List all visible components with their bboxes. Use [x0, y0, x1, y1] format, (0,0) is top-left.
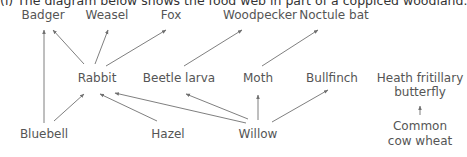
node-willow: Willow	[239, 127, 278, 141]
node-bluebell: Bluebell	[20, 127, 68, 141]
arrow-bluebell-rabbit	[54, 94, 84, 121]
arrow-rabbit-badger	[53, 30, 84, 64]
node-bullfinch: Bullfinch	[306, 71, 358, 85]
arrow-beetle-larva-woodpecker	[184, 30, 242, 66]
node-noctule-bat: Noctule bat	[299, 8, 368, 22]
node-badger: Badger	[21, 8, 64, 22]
node-rabbit: Rabbit	[78, 71, 117, 85]
node-cow-wheat-line1: Common	[393, 119, 447, 133]
arrow-willow-bullfinch	[272, 90, 328, 122]
node-heath-fritillary-line1: Heath fritillary	[377, 71, 463, 85]
node-heath-fritillary-line2: butterfly	[394, 85, 446, 99]
arrow-moth-noctule-bat	[262, 30, 318, 66]
node-weasel: Weasel	[86, 8, 129, 22]
arrow-rabbit-fox	[106, 30, 166, 66]
arrow-rabbit-weasel	[95, 30, 108, 64]
arrow-willow-rabbit	[115, 93, 246, 123]
node-woodpecker: Woodpecker	[223, 8, 297, 22]
arrow-willow-beetle-larva	[186, 94, 248, 119]
node-fox: Fox	[161, 8, 182, 22]
arrow-hazel-rabbit	[100, 94, 157, 121]
node-beetle-larva: Beetle larva	[143, 71, 215, 85]
node-cow-wheat-line2: cow wheat	[388, 134, 452, 148]
node-moth: Moth	[243, 71, 273, 85]
node-hazel: Hazel	[151, 127, 184, 141]
